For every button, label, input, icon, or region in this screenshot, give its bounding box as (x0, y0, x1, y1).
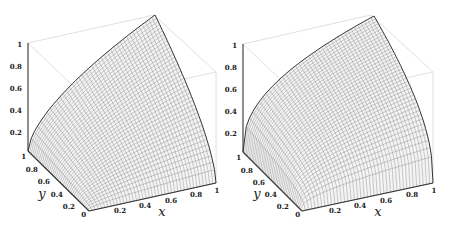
x-tick: 1 (432, 186, 437, 195)
y-tick: 0.2 (63, 202, 75, 211)
z-tick: 1 (232, 41, 237, 50)
x-tick: 0.8 (406, 190, 418, 199)
z-tick: 0.6 (10, 84, 22, 93)
z-tick: 0.4 (10, 106, 22, 115)
x-tick: 0.8 (190, 190, 202, 199)
surface-plot-right: 1 0.8 0.6 0.4 0.2 1 0.8 0.6 0.4 0.2 0 0.… (224, 0, 448, 227)
x-tick: 1 (215, 186, 220, 195)
x-tick: 0.6 (380, 196, 392, 205)
z-ticks: 1 0.8 0.6 0.4 0.2 (225, 41, 237, 138)
y-tick: 1 (21, 152, 26, 161)
z-tick: 0.8 (10, 62, 22, 71)
y-tick: 1 (236, 153, 241, 162)
y-tick: 0.8 (26, 165, 38, 174)
plot-canvas-right: 1 0.8 0.6 0.4 0.2 1 0.8 0.6 0.4 0.2 0 0.… (224, 0, 449, 227)
plot-canvas-left: 1 0.8 0.6 0.4 0.2 1 0.8 0.6 0.4 0.2 0 0.… (0, 0, 224, 227)
y-tick: 0.8 (241, 166, 253, 175)
y-axis-label: y (37, 186, 46, 201)
y-tick: 0.6 (38, 177, 50, 186)
z-tick: 0.8 (225, 63, 237, 72)
x-tick: 0.6 (165, 196, 177, 205)
z-tick: 0.2 (225, 129, 237, 138)
y-axis-label: y (252, 186, 261, 201)
y-tick: 0 (81, 210, 86, 219)
x-tick: 0.2 (114, 206, 126, 215)
y-tick: 0.2 (277, 202, 289, 211)
z-ticks: 1 0.8 0.6 0.4 0.2 (10, 40, 22, 137)
z-tick: 1 (17, 40, 22, 49)
x-axis-label: x (374, 204, 382, 219)
surface-plot-left: 1 0.8 0.6 0.4 0.2 1 0.8 0.6 0.4 0.2 0 0.… (0, 0, 224, 227)
z-tick: 0.2 (10, 128, 22, 137)
x-tick: 0.2 (329, 206, 341, 215)
surface-mesh (243, 16, 433, 211)
x-axis-label: x (158, 204, 166, 219)
y-tick: 0 (295, 210, 300, 219)
surface-mesh (28, 15, 216, 211)
z-tick: 0.6 (225, 85, 237, 94)
x-tick: 0.4 (354, 201, 366, 210)
y-tick: 0.4 (265, 190, 277, 199)
z-tick: 0.4 (225, 107, 237, 116)
y-tick: 0.4 (51, 190, 63, 199)
x-tick: 0.4 (139, 201, 151, 210)
